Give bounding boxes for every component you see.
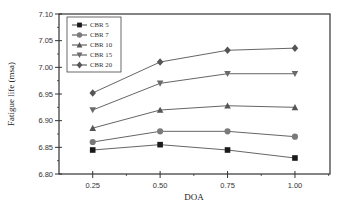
circle-marker: [90, 139, 96, 145]
series-line: [93, 106, 295, 128]
y-tick-label: 6.90: [38, 116, 53, 125]
series-cbr-5: [90, 142, 298, 161]
legend-label: CBR 5: [90, 21, 109, 28]
y-tick-label: 6.95: [38, 90, 53, 99]
y-axis-label: Fatigue life (msa): [6, 62, 16, 126]
circle-marker: [292, 134, 298, 140]
square-marker: [90, 147, 96, 153]
diamond-marker: [224, 46, 231, 54]
diamond-marker: [157, 58, 164, 66]
square-marker: [77, 23, 82, 28]
square-marker: [225, 147, 231, 153]
circle-marker: [224, 128, 230, 134]
y-tick-label: 7.10: [38, 10, 53, 19]
fatigue-life-chart: 6.806.856.906.957.007.057.100.250.500.75…: [0, 0, 342, 213]
x-tick-label: 1.00: [288, 181, 303, 190]
y-tick-label: 6.80: [38, 170, 53, 179]
legend-label: CBR 10: [90, 41, 113, 48]
circle-marker: [77, 32, 82, 37]
series-cbr-7: [90, 128, 298, 145]
x-tick-label: 0.50: [153, 181, 168, 190]
square-marker: [157, 142, 163, 148]
diamond-marker: [89, 89, 96, 97]
x-axis-label: DOA: [184, 192, 204, 202]
x-tick-label: 0.75: [220, 181, 235, 190]
square-marker: [292, 155, 298, 161]
x-tick-label: 0.25: [85, 181, 100, 190]
series-line: [93, 145, 295, 158]
series-line: [93, 48, 295, 93]
legend: CBR 5CBR 7CBR 10CBR 15CBR 20: [67, 17, 121, 72]
triangle-down-marker: [157, 81, 164, 87]
series-cbr-10: [89, 102, 298, 131]
legend-label: CBR 7: [90, 31, 109, 38]
y-tick-label: 7.05: [38, 36, 53, 45]
y-tick-label: 7.00: [38, 63, 53, 72]
legend-label: CBR 15: [90, 51, 113, 58]
series-line: [93, 131, 295, 142]
diamond-marker: [292, 44, 299, 52]
legend-label: CBR 20: [90, 61, 113, 68]
y-tick-label: 6.85: [38, 143, 53, 152]
circle-marker: [157, 128, 163, 134]
triangle-down-marker: [89, 107, 96, 113]
